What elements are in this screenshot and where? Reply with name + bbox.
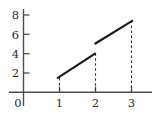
x-tick-label-2: 2 — [92, 96, 99, 110]
x-tick-label-3: 3 — [128, 96, 135, 110]
step-function-plot: 8 6 4 2 0 1 2 3 — [0, 0, 162, 121]
chart-figure: 8 6 4 2 0 1 2 3 — [0, 0, 162, 121]
data-segment-2 — [95, 20, 133, 44]
y-tick-label-2: 2 — [12, 66, 19, 80]
y-tick-label-6: 6 — [12, 28, 19, 42]
x-tick-label-1: 1 — [56, 96, 63, 110]
y-tick-label-8: 8 — [12, 8, 19, 22]
y-tick-label-4: 4 — [12, 47, 19, 61]
data-segment-1 — [57, 53, 96, 78]
origin-label: 0 — [14, 96, 21, 110]
